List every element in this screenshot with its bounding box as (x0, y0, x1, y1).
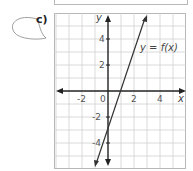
y-tick: 2 (99, 60, 105, 70)
function-annotation: y = f(x) (139, 42, 178, 53)
x-tick: 2 (131, 94, 137, 104)
graph: y x -2 0 2 4 4 2 -2 -4 y = f(x) (0, 0, 193, 171)
y-axis-label: y (95, 12, 103, 23)
x-axis-left-arrow-icon (56, 88, 63, 94)
x-tick: -2 (77, 94, 86, 104)
x-axis-label: x (177, 93, 184, 104)
x-tick: 0 (100, 94, 106, 104)
x-tick: 4 (157, 94, 163, 104)
y-tick: 4 (99, 34, 105, 44)
y-axis-down-arrow-icon (105, 159, 111, 166)
y-tick: -2 (92, 112, 101, 122)
y-axis-up-arrow-icon (105, 15, 111, 22)
line-top-arrow-icon (142, 15, 147, 22)
y-tick: -4 (92, 138, 101, 148)
